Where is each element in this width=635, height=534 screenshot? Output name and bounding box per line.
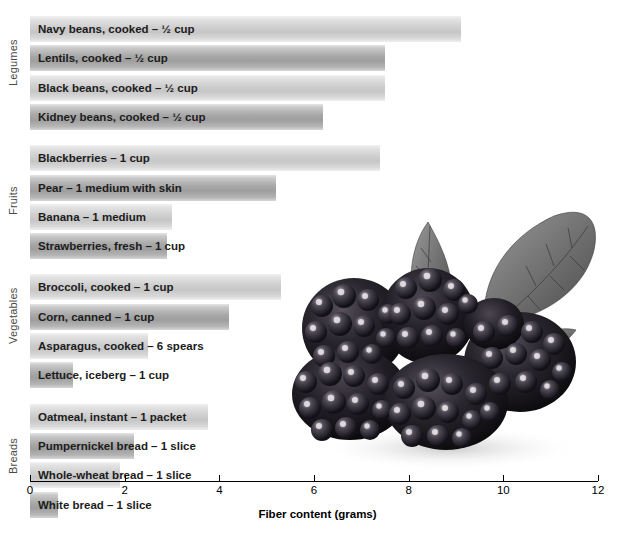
bar-label: Lentils, cooked – ½ cup <box>30 45 168 71</box>
x-axis-tick <box>598 475 599 481</box>
group-label-text: Legumes <box>0 60 26 86</box>
group-label-text: Fruits <box>0 189 26 215</box>
group-label-fruits: Fruits <box>0 145 26 259</box>
x-axis-tick <box>219 475 220 481</box>
bar-label: Banana – 1 medium <box>30 204 146 230</box>
bar-label: Asparagus, cooked – 6 spears <box>30 333 204 359</box>
group-label-text: Breads <box>0 448 26 474</box>
plot-area: Navy beans, cooked – ½ cupLentils, cooke… <box>0 0 635 534</box>
group-label-breads: Breads <box>0 404 26 518</box>
group-label-legumes: Legumes <box>0 16 26 130</box>
x-axis-tick-label: 12 <box>592 484 605 496</box>
fiber-content-chart: Navy beans, cooked – ½ cupLentils, cooke… <box>0 0 635 534</box>
x-axis-tick <box>503 475 504 481</box>
x-axis-tick <box>125 475 126 481</box>
bar-label: Corn, canned – 1 cup <box>30 304 154 330</box>
x-axis-tick <box>30 475 31 481</box>
bar-label: Whole-wheat bread – 1 slice <box>30 462 191 488</box>
x-axis-tick-label: 6 <box>311 484 317 496</box>
bar-label: Pear – 1 medium with skin <box>30 175 182 201</box>
x-axis-tick-label: 2 <box>121 484 127 496</box>
bar-label: Black beans, cooked – ½ cup <box>30 75 198 101</box>
group-label-text: Vegetables <box>0 318 26 344</box>
x-axis-tick-label: 10 <box>497 484 510 496</box>
bar-label: Broccoli, cooked – 1 cup <box>30 274 173 300</box>
x-axis-tick-label: 8 <box>405 484 411 496</box>
x-axis-tick <box>314 475 315 481</box>
bar-label: Strawberries, fresh – 1 cup <box>30 233 185 259</box>
bar-label: Pumpernickel bread – 1 slice <box>30 433 196 459</box>
bar-label: Oatmeal, instant – 1 packet <box>30 404 186 430</box>
x-axis-tick-label: 4 <box>216 484 222 496</box>
x-axis-line <box>30 481 598 482</box>
x-axis-tick-label: 0 <box>27 484 33 496</box>
bar-label: Kidney beans, cooked – ½ cup <box>30 104 205 130</box>
x-axis-tick <box>409 475 410 481</box>
bar-label: Lettuce, iceberg – 1 cup <box>30 362 169 388</box>
group-label-vegetables: Vegetables <box>0 274 26 388</box>
bar-label: Blackberries – 1 cup <box>30 145 150 171</box>
x-axis-title: Fiber content (grams) <box>0 508 635 520</box>
bar-label: Navy beans, cooked – ½ cup <box>30 16 195 42</box>
